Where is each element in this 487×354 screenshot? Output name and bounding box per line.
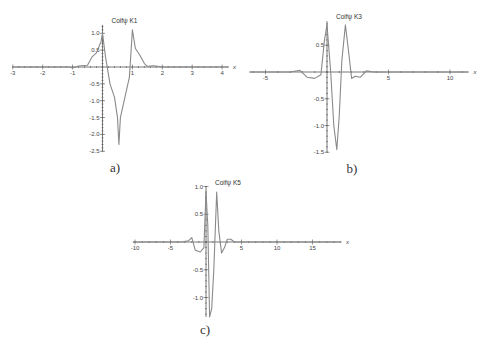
panel-caption-c: c): [200, 322, 210, 337]
x-tick-label: -10: [131, 245, 140, 251]
y-tick-label: 0.5: [195, 211, 204, 217]
y-tick-label: -1.0: [314, 123, 325, 129]
y-tick-label: 1.0: [91, 30, 100, 36]
y-tick-label: -1.5: [89, 115, 100, 121]
x-tick-label: -3: [10, 70, 16, 76]
x-tick-label: -5: [168, 245, 174, 251]
x-axis-label: x: [472, 69, 477, 75]
wavelet-curve: [133, 192, 341, 317]
chart-title: Coifψ K3: [336, 13, 362, 21]
y-tick-label: -1.0: [193, 295, 204, 301]
chart-panel-b: -55100.5-0.5-1.0-1.5xCoifψ K3: [250, 13, 478, 155]
x-tick-label: 10: [447, 75, 454, 81]
x-tick-label: -2: [40, 70, 46, 76]
x-tick-label: 5: [387, 75, 391, 81]
chart-panel-a: -3-2-112341.00.5-0.5-1.0-1.5-2.0-2.5xCoi…: [10, 17, 237, 154]
figure-canvas: -3-2-112341.00.5-0.5-1.0-1.5-2.0-2.5xCoi…: [0, 0, 487, 354]
y-tick-label: -0.5: [193, 267, 204, 273]
x-tick-label: 5: [240, 245, 244, 251]
chart-title: Coifψ K5: [215, 179, 241, 187]
x-tick-label: 4: [220, 70, 224, 76]
y-tick-label: -1.0: [89, 98, 100, 104]
x-tick-label: 10: [274, 245, 281, 251]
y-tick-label: 1.0: [195, 184, 204, 190]
panel-caption-b: b): [347, 161, 358, 176]
x-tick-label: -1: [70, 70, 76, 76]
y-tick-label: -0.5: [314, 96, 325, 102]
chart-title: Coifψ K1: [112, 17, 138, 25]
x-axis-label: x: [345, 239, 350, 245]
x-axis-label: x: [232, 64, 237, 70]
y-tick-label: -2.5: [89, 148, 100, 154]
x-tick-label: 15: [309, 245, 316, 251]
x-tick-label: 1: [131, 70, 135, 76]
x-tick-label: 3: [191, 70, 195, 76]
y-tick-label: -1.5: [314, 149, 325, 155]
y-tick-label: -2.0: [89, 131, 100, 137]
x-tick-label: -5: [263, 75, 269, 81]
y-tick-label: -0.5: [89, 81, 100, 87]
wavelet-curve: [13, 30, 228, 145]
wavelet-curve: [250, 25, 469, 150]
chart-panel-c: -10-5510151.00.5-0.5-1.0xCoifψ K5: [131, 179, 350, 317]
panel-caption-a: a): [110, 160, 120, 175]
x-tick-label: 2: [161, 70, 165, 76]
